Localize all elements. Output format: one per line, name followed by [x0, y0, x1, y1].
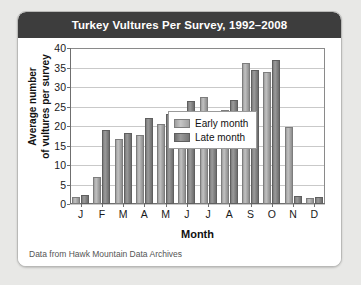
bar-group-december: D	[304, 48, 325, 204]
bar-november-early	[285, 127, 293, 204]
x-tick-mark-n-10	[293, 204, 294, 207]
y-tick-label-20: 20	[54, 120, 66, 132]
bar-group-november: N	[283, 48, 304, 204]
y-tick-label-30: 30	[54, 81, 66, 93]
y-tick-label-25: 25	[54, 101, 66, 113]
y-axis-label-line1: Average number	[27, 67, 38, 146]
bar-march-early	[115, 139, 123, 204]
bar-group-february: F	[91, 48, 112, 204]
y-axis-label: Average number of vultures per survey	[27, 32, 52, 182]
bar-group-march: M	[113, 48, 134, 204]
bar-january-early	[72, 197, 80, 204]
x-tick-label-september: S	[247, 208, 254, 220]
source-note: Data from Hawk Mountain Data Archives	[29, 249, 182, 259]
x-tick-label-august: A	[226, 208, 233, 220]
plot-area: Average number of vultures per survey 05…	[18, 38, 341, 267]
x-tick-mark-a-3	[144, 204, 145, 207]
x-tick-label-november: N	[289, 208, 297, 220]
x-tick-mark-m-2	[123, 204, 124, 207]
x-axis-label: Month	[70, 228, 325, 240]
y-tick-label-35: 35	[54, 62, 66, 74]
bar-november-late	[294, 196, 302, 204]
x-tick-label-april: A	[141, 208, 148, 220]
bar-january-late	[81, 195, 89, 204]
legend-label-early: Early month	[195, 118, 248, 129]
bar-february-early	[93, 177, 101, 204]
bar-february-late	[102, 130, 110, 204]
bar-group-january: J	[70, 48, 91, 204]
bar-october-early	[263, 72, 271, 204]
bar-group-october: O	[261, 48, 282, 204]
x-tick-mark-j-0	[81, 204, 82, 207]
legend-item-early: Early month	[174, 116, 248, 130]
x-tick-label-june: J	[184, 208, 189, 220]
x-tick-label-december: D	[311, 208, 319, 220]
bar-may-early	[157, 124, 165, 204]
x-tick-label-february: F	[99, 208, 105, 220]
x-tick-mark-f-1	[102, 204, 103, 207]
chart-plot: 0510152025303540 JFMAMJJASOND Early mont…	[70, 48, 325, 204]
x-tick-mark-d-11	[314, 204, 315, 207]
chart-legend: Early month Late month	[168, 111, 257, 149]
bar-group-april: A	[134, 48, 155, 204]
x-tick-mark-j-5	[187, 204, 188, 207]
y-tick-mark-0	[67, 204, 70, 205]
legend-label-late: Late month	[195, 132, 245, 143]
page-title: Turkey Vultures Per Survey, 1992–2008	[72, 19, 288, 31]
bar-october-late	[272, 60, 280, 204]
bar-december-late	[315, 197, 323, 204]
gridline-0	[70, 204, 325, 205]
legend-swatch-late-icon	[174, 133, 190, 142]
x-tick-mark-j-6	[208, 204, 209, 207]
y-tick-label-0: 0	[60, 198, 66, 210]
legend-item-late: Late month	[174, 130, 248, 144]
x-tick-label-march: M	[119, 208, 128, 220]
bar-april-late	[145, 118, 153, 204]
y-tick-label-10: 10	[54, 159, 66, 171]
bar-april-early	[136, 135, 144, 204]
y-tick-label-15: 15	[54, 140, 66, 152]
x-tick-label-october: O	[268, 208, 276, 220]
legend-swatch-early-icon	[174, 119, 190, 128]
x-tick-mark-o-9	[272, 204, 273, 207]
x-tick-label-may: M	[161, 208, 170, 220]
x-tick-label-july: J	[206, 208, 211, 220]
chart-title-bar: Turkey Vultures Per Survey, 1992–2008	[18, 12, 341, 38]
x-tick-label-january: J	[78, 208, 83, 220]
x-tick-mark-s-8	[251, 204, 252, 207]
y-tick-label-40: 40	[54, 42, 66, 54]
chart-card: Turkey Vultures Per Survey, 1992–2008 Av…	[17, 11, 342, 267]
bar-march-late	[124, 133, 132, 204]
x-tick-mark-m-4	[166, 204, 167, 207]
bar-december-early	[306, 198, 314, 204]
y-axis-label-line2: of vultures per survey	[39, 54, 50, 158]
x-tick-mark-a-7	[229, 204, 230, 207]
y-tick-label-5: 5	[60, 179, 66, 191]
